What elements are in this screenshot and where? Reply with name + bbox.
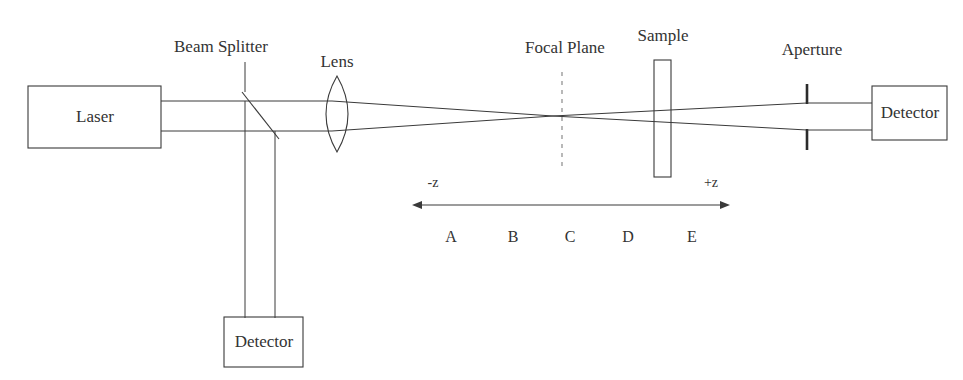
reference-detector-label: Detector: [235, 333, 294, 350]
lens-label: Lens: [320, 53, 353, 70]
sample-element: [654, 60, 671, 177]
z-position-label-e: E: [687, 229, 697, 245]
focal-plane-label: Focal Plane: [525, 39, 605, 56]
transmission-detector-label: Detector: [881, 104, 940, 121]
z-position-label-c: C: [565, 229, 576, 245]
lens-element: [326, 76, 348, 152]
sample-label: Sample: [638, 27, 689, 44]
z-axis-positive-label: +z: [704, 176, 718, 190]
zscan-setup-diagram: Beam Splitter Lens Focal Plane Sample Ap…: [0, 0, 963, 380]
beam-upper-ray-converging: [332, 101, 553, 116]
beam-lower-ray-converging: [332, 116, 553, 131]
z-axis-negative-label: -z: [428, 176, 439, 190]
z-axis-arrowhead-negative: [412, 201, 422, 209]
beam-lower-ray-diverging: [553, 116, 807, 130]
beam-splitter-element: [242, 92, 279, 139]
beam-splitter-label: Beam Splitter: [174, 38, 268, 55]
aperture-label: Aperture: [782, 41, 842, 58]
laser-label: Laser: [76, 108, 114, 125]
z-position-label-a: A: [445, 229, 457, 245]
z-position-label-d: D: [622, 229, 634, 245]
beam-upper-ray-diverging: [553, 103, 807, 116]
z-axis-arrowhead-positive: [720, 201, 730, 209]
z-position-label-b: B: [508, 229, 519, 245]
